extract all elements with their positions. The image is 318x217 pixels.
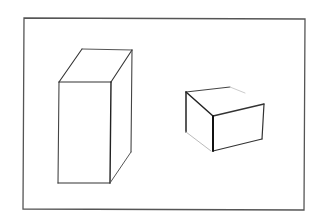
tall-box-edge — [110, 82, 111, 183]
background — [0, 0, 318, 217]
drawing-canvas — [0, 0, 318, 217]
